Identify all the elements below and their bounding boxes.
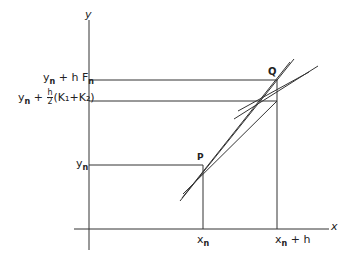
tick-yn: yn — [76, 157, 88, 172]
tick-xn-plus-h: xn + h — [275, 233, 310, 248]
rk2-diagram: y x P Q xn xn + h yn yn + h2(K₁+K₂) yn +… — [0, 0, 359, 259]
point-p-label: P — [197, 152, 204, 162]
point-q-label: Q — [268, 66, 277, 77]
y-axis-label: y — [85, 8, 92, 21]
tick-yn-half-k: yn + h2(K₁+K₂) — [18, 89, 95, 106]
x-axis-label: x — [331, 220, 338, 233]
chord-p-steep — [182, 62, 290, 198]
diagram-lines — [0, 0, 359, 259]
tick-xn: xn — [197, 233, 209, 248]
tangent-p — [183, 101, 277, 194]
tick-yn-hfn: yn + h Fn — [43, 71, 94, 86]
